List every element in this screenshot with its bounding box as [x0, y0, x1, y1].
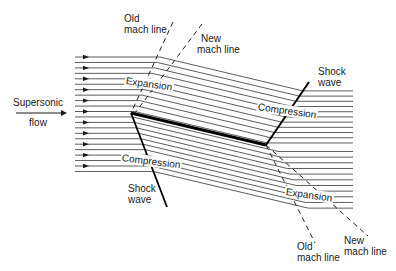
streamline-arrow-icon [83, 55, 89, 59]
old-mach-bottom-line1: Old [297, 241, 340, 252]
streamline-arrow-icon [83, 131, 89, 135]
flat-plate [131, 113, 266, 145]
old-mach-bottom-line2: mach line [297, 252, 340, 263]
streamline-arrow-icon [83, 109, 89, 113]
old-mach-top-label: Old mach line [124, 13, 167, 35]
shock-top-label: Shock wave [318, 66, 346, 88]
inflow-label-line2: flow [8, 117, 68, 128]
inflow-label-2: flow [8, 117, 68, 128]
new-mach-line-top [135, 24, 202, 113]
new-mach-top-label: New mach line [197, 33, 240, 55]
streamline-arrow-icon [83, 77, 89, 81]
old-mach-top-line2: mach line [124, 24, 167, 35]
shock-bottom-line2: wave [128, 194, 156, 205]
old-mach-bottom-label: Old mach line [297, 241, 340, 263]
streamline-arrow-icon [83, 98, 89, 102]
inflow-label: Supersonic [8, 97, 68, 108]
streamline-arrow-icon [83, 153, 89, 157]
streamline-arrow-icon [83, 66, 89, 70]
shock-top-line2: wave [318, 77, 346, 88]
new-mach-bottom-label: New mach line [344, 235, 387, 257]
inflow-label-line1: Supersonic [8, 97, 68, 108]
streamline-arrow-icon [83, 120, 89, 124]
streamline-arrow-icon [83, 142, 89, 146]
new-mach-bottom-line1: New [344, 235, 387, 246]
streamline-arrow-icon [83, 164, 89, 168]
shock-bottom-line1: Shock [128, 183, 156, 194]
shock-bottom-label: Shock wave [128, 183, 156, 205]
new-mach-bottom-line2: mach line [344, 246, 387, 257]
new-mach-top-line1: New [197, 33, 240, 44]
old-mach-top-line1: Old [124, 13, 167, 24]
shock-top-line1: Shock [318, 66, 346, 77]
streamline-arrow-icon [83, 88, 89, 92]
new-mach-top-line2: mach line [197, 44, 240, 55]
